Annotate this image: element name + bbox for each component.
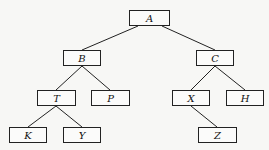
tree-diagram: A B C T P X H K Y Z xyxy=(0,0,269,150)
node-p-label: P xyxy=(107,93,114,104)
edge-b-t xyxy=(56,66,82,90)
edge-a-b xyxy=(82,26,138,50)
node-b: B xyxy=(63,50,101,66)
node-c-label: C xyxy=(211,53,219,64)
edge-b-p xyxy=(82,66,110,90)
node-t: T xyxy=(37,90,76,106)
node-z: Z xyxy=(198,127,237,143)
node-z-label: Z xyxy=(214,130,221,141)
node-k: K xyxy=(9,127,47,143)
node-y-label: Y xyxy=(79,130,86,141)
node-a: A xyxy=(129,10,170,26)
node-h-label: H xyxy=(241,93,250,104)
node-a-label: A xyxy=(146,13,153,24)
node-y: Y xyxy=(63,127,101,143)
node-b-label: B xyxy=(78,53,85,64)
edge-c-x xyxy=(191,66,215,90)
edge-t-y xyxy=(56,106,82,127)
node-p: P xyxy=(91,90,130,106)
edge-c-h xyxy=(215,66,245,90)
node-c: C xyxy=(196,50,234,66)
node-k-label: K xyxy=(24,130,31,141)
node-x-label: X xyxy=(187,93,194,104)
node-x: X xyxy=(172,90,210,106)
node-t-label: T xyxy=(53,93,60,104)
node-h: H xyxy=(226,90,264,106)
edge-a-c xyxy=(162,26,215,50)
edge-t-k xyxy=(28,106,56,127)
edge-x-z xyxy=(191,106,217,127)
